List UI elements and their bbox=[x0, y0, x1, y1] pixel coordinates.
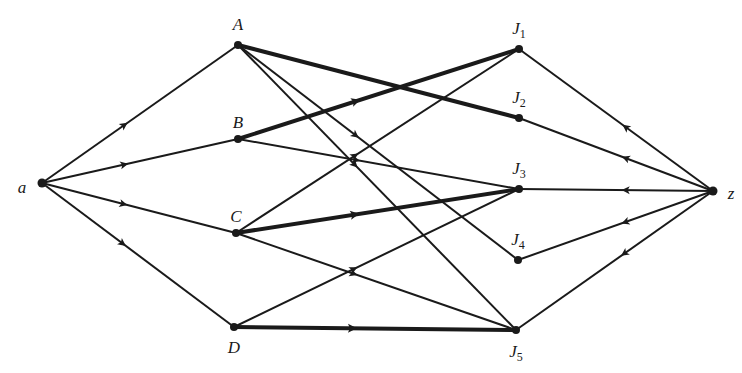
node-label-subscript: 2 bbox=[520, 96, 526, 110]
edges-layer bbox=[42, 45, 713, 333]
node-J2 bbox=[515, 114, 523, 122]
node-label-z: z bbox=[728, 185, 735, 202]
node-label-text: J bbox=[509, 342, 517, 361]
edge-a-C bbox=[42, 183, 236, 233]
node-label-text: D bbox=[228, 338, 240, 357]
node-label-text: a bbox=[18, 178, 27, 197]
edge-A-J5 bbox=[238, 45, 516, 330]
node-label-subscript: 4 bbox=[519, 238, 525, 252]
edge-a-A bbox=[42, 45, 238, 183]
node-label-J3: J3 bbox=[512, 160, 526, 180]
edge-D-J5 bbox=[234, 327, 516, 330]
edge-C-J5 bbox=[236, 233, 516, 330]
edge-z-J4 bbox=[518, 191, 713, 260]
node-label-J1: J1 bbox=[512, 20, 526, 40]
edge-B-J3 bbox=[238, 139, 519, 189]
node-B bbox=[234, 135, 242, 143]
node-J1 bbox=[515, 45, 523, 53]
node-label-text: J bbox=[512, 159, 520, 178]
edge-z-J1 bbox=[519, 49, 713, 191]
arrow-icon bbox=[119, 123, 128, 131]
node-label-text: B bbox=[233, 113, 243, 132]
edge-z-J5 bbox=[516, 191, 713, 330]
node-label-D: D bbox=[228, 339, 240, 356]
edge-a-B bbox=[42, 139, 238, 183]
edge-C-J3 bbox=[236, 189, 519, 233]
arrow-icon bbox=[621, 248, 630, 256]
node-label-J4: J4 bbox=[511, 231, 525, 251]
arrow-icon bbox=[622, 125, 631, 133]
node-label-J5: J5 bbox=[509, 343, 523, 363]
node-label-text: J bbox=[512, 19, 520, 38]
node-label-B: B bbox=[233, 114, 243, 131]
network-diagram bbox=[0, 0, 742, 373]
node-z bbox=[709, 187, 718, 196]
node-label-C: C bbox=[230, 208, 241, 225]
node-label-subscript: 1 bbox=[520, 27, 526, 41]
node-label-text: z bbox=[728, 184, 735, 203]
edge-z-J2 bbox=[519, 118, 713, 191]
node-label-text: J bbox=[511, 230, 519, 249]
edge-a-D bbox=[42, 183, 234, 327]
node-label-A: A bbox=[233, 16, 243, 33]
node-label-a: a bbox=[18, 179, 27, 196]
node-J4 bbox=[514, 256, 522, 264]
node-A bbox=[234, 41, 242, 49]
node-D bbox=[230, 323, 238, 331]
node-label-subscript: 3 bbox=[520, 167, 526, 181]
node-label-text: A bbox=[233, 15, 243, 34]
node-label-text: C bbox=[230, 207, 241, 226]
node-J5 bbox=[512, 326, 520, 334]
node-a bbox=[38, 179, 47, 188]
node-label-subscript: 5 bbox=[517, 350, 523, 364]
node-label-J2: J2 bbox=[512, 89, 526, 109]
node-J3 bbox=[515, 185, 523, 193]
node-C bbox=[232, 229, 240, 237]
edge-A-J2 bbox=[238, 45, 519, 118]
node-label-text: J bbox=[512, 88, 520, 107]
edge-z-J3 bbox=[519, 189, 713, 191]
edge-B-J1 bbox=[238, 49, 519, 139]
